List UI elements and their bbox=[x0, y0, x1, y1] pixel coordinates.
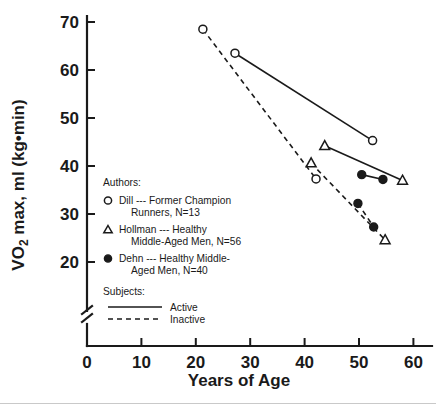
legend-item-label: Dehn --- Healthy Middle- bbox=[119, 253, 230, 264]
open-circle-marker bbox=[312, 175, 320, 183]
open-circle-icon bbox=[104, 197, 111, 204]
x-ticklabel: 50 bbox=[350, 353, 369, 372]
legend-item-label-cont: Middle-Aged Men, N=56 bbox=[131, 236, 241, 247]
legend-item-hollman: Hollman --- Healthy Middle-Aged Men, N=5… bbox=[104, 224, 242, 247]
open-circle-marker bbox=[369, 137, 377, 145]
x-ticklabel-group: 0102030405060 bbox=[82, 353, 423, 372]
legend-subjects-heading: Subjects: bbox=[103, 286, 145, 297]
open-triangle-icon bbox=[104, 226, 112, 233]
legend-subject-inactive: Inactive bbox=[108, 314, 205, 325]
legend-item-label: Hollman --- Healthy bbox=[119, 224, 208, 235]
filled-circle-marker bbox=[379, 175, 387, 183]
y-axis-title: VO2 max, ml (kg•min) bbox=[9, 99, 31, 270]
y-ticklabel: 70 bbox=[60, 13, 79, 32]
dashed-connector bbox=[203, 29, 316, 179]
x-axis: 0102030405060 bbox=[82, 338, 432, 372]
open-triangle-marker bbox=[306, 158, 316, 167]
data-series-layer bbox=[199, 25, 408, 243]
open-circle-marker bbox=[231, 49, 239, 57]
x-ticklabel: 60 bbox=[404, 353, 423, 372]
legend-item-label: Dill --- Former Champion bbox=[119, 195, 231, 206]
legend-item-dehn: Dehn --- Healthy Middle- Aged Men, N=40 bbox=[104, 253, 230, 276]
y-axis: 203040506070 bbox=[60, 13, 95, 346]
legend-item-dill: Dill --- Former Champion Runners, N=13 bbox=[104, 195, 231, 218]
x-tick-group bbox=[141, 338, 413, 346]
y-ticklabel: 20 bbox=[60, 253, 79, 272]
series-hollman-inactive bbox=[306, 158, 390, 244]
solid-connector bbox=[235, 53, 373, 140]
filled-circle-marker bbox=[354, 199, 362, 207]
x-ticklabel: 40 bbox=[295, 353, 314, 372]
series-dill-inactive bbox=[199, 25, 320, 183]
filled-circle-icon bbox=[104, 255, 111, 262]
y-ticklabel-group: 203040506070 bbox=[60, 13, 79, 272]
x-ticklabel: 10 bbox=[132, 353, 151, 372]
x-ticklabel: 0 bbox=[82, 353, 91, 372]
series-dehn-inactive bbox=[354, 199, 378, 231]
x-ticklabel: 20 bbox=[186, 353, 205, 372]
filled-circle-marker bbox=[358, 171, 366, 179]
series-dill-active bbox=[231, 49, 377, 144]
legend-item-label-cont: Runners, N=13 bbox=[131, 207, 200, 218]
vo2max-age-scatter-chart: 203040506070 0102030405060 Years of Age … bbox=[0, 0, 436, 404]
open-circle-marker bbox=[199, 25, 207, 33]
y-ticklabel: 40 bbox=[60, 157, 79, 176]
chart-legend: Authors: Dill --- Former Champion Runner… bbox=[103, 177, 241, 325]
legend-subject-label: Active bbox=[170, 302, 198, 313]
legend-subject-active: Active bbox=[108, 302, 198, 313]
legend-item-label-cont: Aged Men, N=40 bbox=[131, 265, 208, 276]
legend-authors-heading: Authors: bbox=[103, 177, 141, 188]
chart-container: 203040506070 0102030405060 Years of Age … bbox=[0, 0, 436, 404]
y-tick-group bbox=[87, 22, 95, 262]
y-ticklabel: 30 bbox=[60, 205, 79, 224]
series-dehn-active bbox=[358, 171, 387, 184]
x-ticklabel: 30 bbox=[241, 353, 260, 372]
filled-circle-marker bbox=[370, 223, 378, 231]
y-ticklabel: 60 bbox=[60, 61, 79, 80]
legend-subject-label: Inactive bbox=[170, 314, 205, 325]
y-ticklabel: 50 bbox=[60, 109, 79, 128]
open-triangle-marker bbox=[320, 141, 330, 150]
x-axis-title: Years of Age bbox=[188, 371, 290, 390]
